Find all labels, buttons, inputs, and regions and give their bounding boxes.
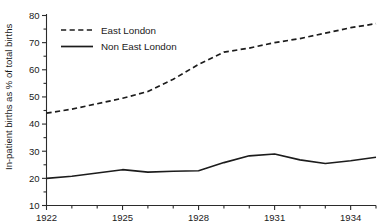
x-tick-label: 1922 [36,212,57,223]
series-line-non-east-london [47,154,377,178]
y-tick-label: 30 [29,146,40,157]
y-tick-label: 40 [29,118,40,129]
line-chart: In-patient births as % of total births 1… [0,0,381,224]
chart-figure: In-patient births as % of total births 1… [0,0,381,224]
series-group [47,24,377,179]
chart-legend: East LondonNon East London [61,25,177,53]
legend-label-east-london: East London [101,25,156,36]
y-axis-ticks: 1020304050607080 [29,10,47,211]
x-tick-label: 1928 [188,212,209,223]
x-tick-label: 1931 [264,212,285,223]
y-axis-title-text: In-patient births as % of total births [3,23,14,170]
series-line-east-london [47,24,377,114]
legend-label-non-east-london: Non East London [101,41,177,52]
y-axis-title: In-patient births as % of total births [3,23,14,170]
y-tick-label: 80 [29,10,40,21]
x-tick-label: 1934 [340,212,361,223]
x-axis-ticks: 19221925192819311934 [36,206,376,224]
y-tick-label: 10 [29,200,40,211]
y-tick-label: 70 [29,37,40,48]
y-tick-label: 20 [29,173,40,184]
axes [47,14,377,206]
y-tick-label: 50 [29,91,40,102]
x-tick-label: 1925 [112,212,133,223]
y-tick-label: 60 [29,64,40,75]
